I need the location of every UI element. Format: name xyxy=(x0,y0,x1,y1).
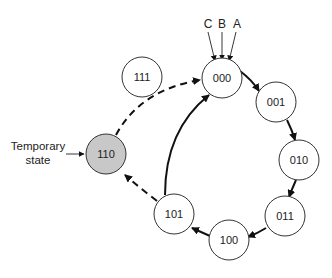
svg-text:110: 110 xyxy=(97,148,115,160)
transition-101-000 xyxy=(165,95,209,195)
transition-000-001 xyxy=(240,71,259,91)
transition-100-101 xyxy=(192,228,210,236)
temporary-state-annotation: Temporary state xyxy=(11,140,84,166)
annotation-line2: state xyxy=(26,154,51,166)
svg-text:010: 010 xyxy=(290,154,308,166)
state-001: 001 xyxy=(256,82,296,122)
input-label-c: C xyxy=(204,17,213,31)
svg-text:100: 100 xyxy=(220,234,238,246)
state-diagram: C B A Temporary state 000 001 010 011 xyxy=(0,0,332,278)
annotation-line1: Temporary xyxy=(11,140,66,152)
transition-010-011 xyxy=(289,180,296,197)
svg-text:011: 011 xyxy=(276,210,294,222)
transition-011-100 xyxy=(248,228,266,237)
input-arrow-c xyxy=(208,32,215,61)
input-lines: C B A xyxy=(204,17,241,61)
state-111: 111 xyxy=(122,57,162,97)
input-label-b: B xyxy=(218,17,226,31)
state-100: 100 xyxy=(209,220,249,260)
svg-text:001: 001 xyxy=(267,96,285,108)
state-101: 101 xyxy=(154,194,194,234)
svg-text:101: 101 xyxy=(165,208,183,220)
transition-101-110 xyxy=(125,175,157,201)
state-011: 011 xyxy=(265,196,305,236)
input-label-a: A xyxy=(233,17,241,31)
input-arrow-a xyxy=(229,32,236,61)
transition-001-010 xyxy=(287,120,295,140)
state-010: 010 xyxy=(279,140,319,180)
state-110: 110 xyxy=(86,134,126,174)
svg-text:111: 111 xyxy=(134,71,151,83)
svg-text:000: 000 xyxy=(213,72,231,84)
state-000: 000 xyxy=(202,58,242,98)
